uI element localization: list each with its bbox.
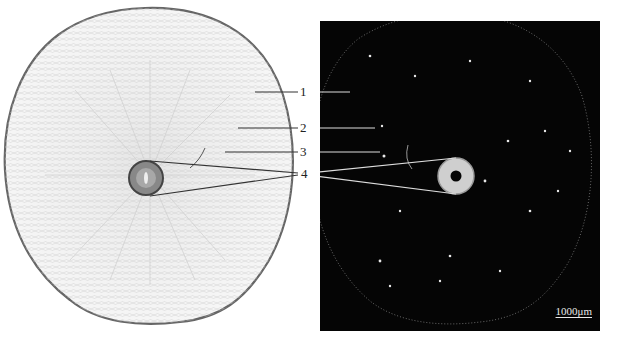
brightfield-cross-section bbox=[0, 0, 300, 348]
label-3: 3 bbox=[300, 145, 307, 158]
label-1: 1 bbox=[300, 85, 307, 98]
brightfield-micrograph bbox=[0, 0, 300, 348]
label-2: 2 bbox=[300, 121, 307, 134]
scale-bar: 1000μm bbox=[556, 305, 592, 317]
label-4: 4 bbox=[301, 167, 308, 180]
fluorescence-cross-section bbox=[320, 21, 600, 331]
fluorescence-micrograph: 1000μm bbox=[320, 21, 600, 331]
leader-lines-right bbox=[320, 92, 456, 194]
